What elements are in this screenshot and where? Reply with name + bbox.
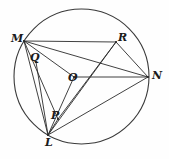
segment-M-N [24,41,148,77]
point-n [147,76,149,78]
main-circle [14,9,149,144]
point-label-m: M [11,33,23,44]
point-label-o: O [68,72,78,83]
point-label-l: L [45,137,53,148]
segment-L-N [48,77,148,135]
geometry-canvas [0,0,169,159]
segment-R-N [116,42,148,77]
segment-M-R [24,41,116,42]
point-label-p: P [51,110,59,121]
segment-Q-L [36,62,48,135]
point-label-r: R [118,32,127,43]
point-label-n: N [152,70,162,81]
geometry-diagram: MRNLQOP [0,0,169,159]
point-label-q: Q [30,52,40,63]
point-m [23,40,25,42]
segments-group [24,41,148,135]
point-r [115,41,117,43]
